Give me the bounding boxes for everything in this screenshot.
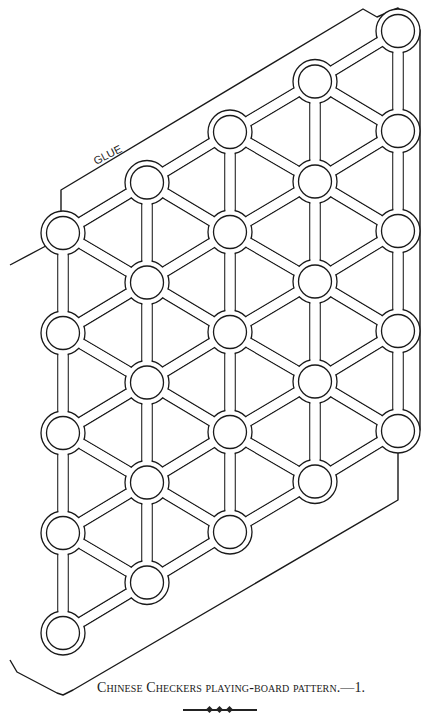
bar-join (162, 541, 216, 574)
hole-icon (214, 316, 247, 349)
hole-icon (214, 516, 247, 549)
hole-icon (299, 365, 332, 398)
bar-join (162, 191, 216, 223)
bar-join (245, 290, 301, 323)
bar-join (162, 491, 216, 523)
decorative-divider (183, 709, 257, 711)
bar-join (78, 291, 133, 324)
bar-join (78, 491, 133, 524)
hole-icon (47, 317, 80, 350)
hole-icon (131, 566, 164, 599)
hole-icon (131, 166, 164, 199)
hole-icon (131, 466, 164, 499)
bar-join (330, 290, 384, 322)
hole-icon (299, 165, 332, 198)
bar-join (330, 390, 384, 422)
chinese-checkers-board-diagram: GLUE (0, 0, 441, 720)
bar-join (162, 441, 216, 474)
bar-join (245, 490, 301, 523)
bar-join (330, 440, 384, 473)
hole-icon (299, 65, 332, 98)
hole-icon (299, 465, 332, 498)
hole-icon (131, 266, 164, 299)
hole-icon (382, 315, 415, 348)
hole-icon (47, 617, 80, 650)
bar-join (245, 341, 301, 373)
bar-join (330, 90, 384, 122)
bar-join (162, 241, 216, 274)
bar-join (330, 240, 384, 273)
hole-icon (299, 265, 332, 298)
bar-join (162, 391, 216, 423)
hole-icon (131, 366, 164, 399)
hole-icon (214, 116, 247, 149)
bar-join (245, 190, 301, 223)
bar-join (245, 141, 301, 173)
hole-icon (47, 517, 80, 550)
bar-join (330, 140, 384, 173)
hole-icon (382, 215, 415, 248)
bar-join (78, 342, 133, 374)
bar-join (162, 291, 216, 323)
bar-join (162, 141, 216, 174)
bar-join (78, 391, 133, 424)
bar-join (245, 90, 301, 123)
hole-icon (47, 417, 80, 450)
bar-join (78, 591, 133, 624)
bar-join (78, 191, 133, 224)
bar-join (330, 340, 384, 373)
glue-label: GLUE (91, 142, 123, 166)
hole-icon (382, 115, 415, 148)
hole-icon (382, 15, 415, 48)
hole-icon (214, 416, 247, 449)
bar-join (245, 390, 301, 423)
bar-join (245, 241, 301, 273)
bar-join (245, 441, 301, 473)
bar-join (78, 242, 133, 274)
bar-join (330, 40, 384, 73)
bar-join (78, 542, 133, 574)
bar-join (330, 190, 384, 222)
hole-icon (214, 216, 247, 249)
bar-join (162, 341, 216, 374)
board-holes (41, 9, 420, 655)
bar-join (78, 442, 133, 474)
hole-icon (47, 217, 80, 250)
figure-caption: Chinese Checkers playing-board pattern.—… (97, 680, 365, 696)
hole-icon (382, 415, 415, 448)
